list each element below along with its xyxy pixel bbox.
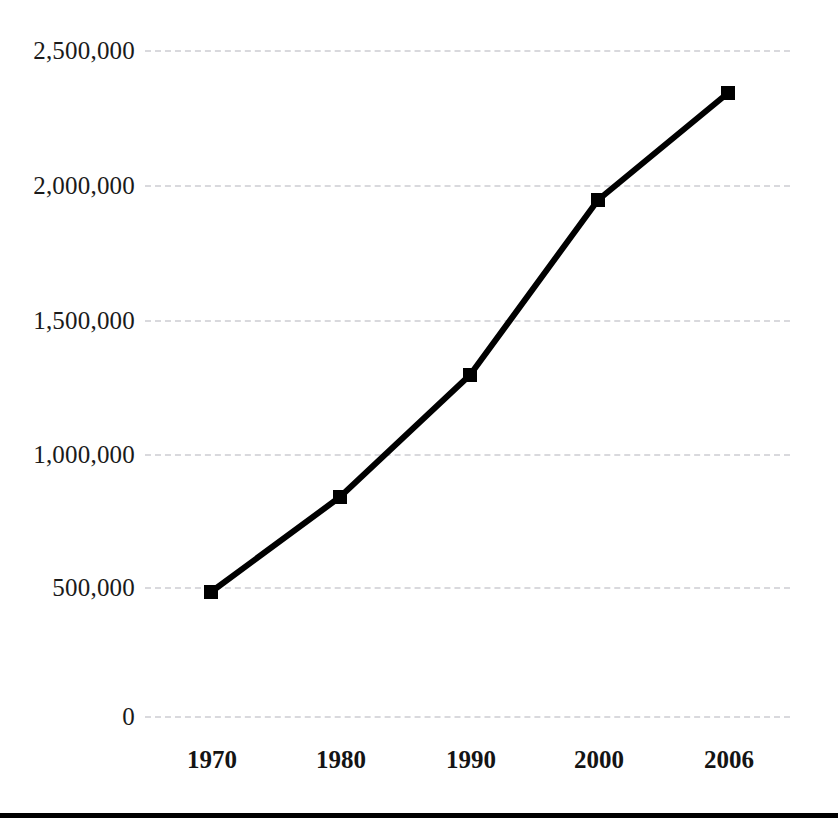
plot-area: 2,500,000 2,000,000 1,500,000 1,000,000 …: [0, 0, 838, 832]
data-series-line: [0, 0, 838, 832]
x-tick-label-1970: 1970: [142, 747, 282, 772]
data-point-marker-1980: [333, 490, 347, 504]
data-point-marker-1970: [204, 585, 218, 599]
x-tick-label-2000: 2000: [529, 747, 669, 772]
data-point-marker-2000: [591, 193, 605, 207]
data-point-marker-2006: [721, 86, 735, 100]
x-tick-label-2006: 2006: [659, 747, 799, 772]
data-point-marker-1990: [463, 368, 477, 382]
series-polyline: [211, 93, 728, 592]
line-chart-figure: 2,500,000 2,000,000 1,500,000 1,000,000 …: [0, 0, 838, 832]
bottom-horizontal-rule: [0, 813, 838, 818]
x-tick-label-1990: 1990: [401, 747, 541, 772]
x-tick-label-1980: 1980: [271, 747, 411, 772]
